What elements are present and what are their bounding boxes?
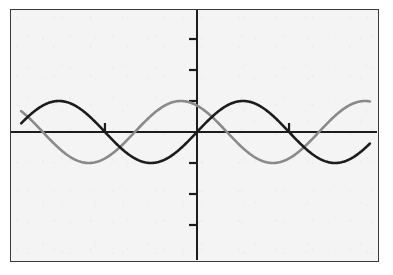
graph-plot-area	[0, 0, 393, 275]
calculator-graph-screen	[0, 0, 393, 275]
